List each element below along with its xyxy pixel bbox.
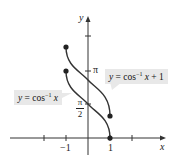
endpoint-dot	[63, 44, 68, 49]
x-axis-arrow-icon	[160, 136, 166, 141]
x-tick-label-1: 1	[108, 142, 113, 153]
y-tick-label-pi-half: π 2	[76, 98, 84, 119]
callout-plus: + 1	[149, 72, 164, 82]
x-tick-label-neg1: −1	[60, 142, 71, 153]
callout-eq: = cos	[113, 72, 136, 82]
callout-var-x: x	[142, 72, 149, 82]
endpoint-dot	[63, 68, 68, 73]
fraction-numerator: π	[78, 97, 83, 107]
x-axis-label: x	[160, 141, 164, 152]
callout-var-x: x	[51, 93, 58, 103]
callout-eq: = cos	[22, 93, 45, 103]
endpoint-dot	[107, 113, 112, 118]
y-axis-label: y	[79, 12, 83, 23]
callout-arccos: y = cos−1 x	[14, 90, 62, 105]
y-axis-arrow-icon	[86, 16, 91, 22]
graph-figure: y x −1 1 π π 2 y = cos−1 x + 1 y = cos−1…	[0, 0, 179, 166]
fraction-denominator: 2	[78, 109, 83, 119]
y-tick-label-pi: π	[93, 64, 98, 75]
endpoint-dot	[107, 135, 112, 140]
callout-arccos-shifted: y = cos−1 x + 1	[105, 69, 168, 84]
